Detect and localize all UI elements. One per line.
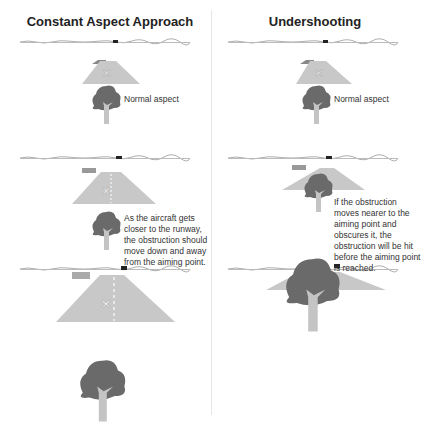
left-caption-detail: As the aircraft gets closer to the runwa… bbox=[124, 213, 210, 268]
svg-text:✕: ✕ bbox=[100, 296, 112, 312]
svg-text:✕: ✕ bbox=[101, 184, 111, 198]
svg-text:✕: ✕ bbox=[102, 67, 111, 79]
left-scene-1: ✕ bbox=[20, 39, 190, 124]
right-scene-1: ✕ bbox=[228, 39, 398, 124]
right-caption-detail: If the obstruction moves nearer to the a… bbox=[334, 197, 422, 274]
left-scene-3: ✕ bbox=[20, 266, 190, 422]
svg-text:✕: ✕ bbox=[314, 67, 323, 79]
left-caption-normal: Normal aspect bbox=[124, 94, 179, 105]
right-caption-normal: Normal aspect bbox=[334, 94, 389, 105]
